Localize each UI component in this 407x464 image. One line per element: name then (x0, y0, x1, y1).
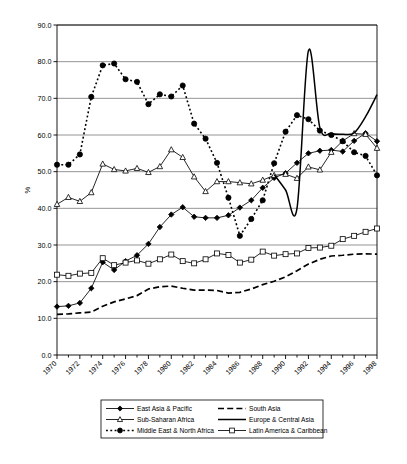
x-tick-label: 1992 (292, 359, 310, 377)
data-point-marker (134, 79, 139, 84)
chart-container: 0.010.020.030.040.050.060.070.080.090.0 … (0, 0, 407, 464)
data-point-marker (89, 190, 95, 195)
data-point-marker (363, 153, 368, 158)
data-point-marker (226, 195, 231, 200)
data-point-marker (226, 213, 231, 218)
data-point-marker (157, 92, 162, 97)
data-point-marker (237, 260, 242, 265)
series-latin-america-caribbean (55, 226, 380, 278)
data-point-marker (111, 166, 117, 171)
x-axis: 1970197219741976197819801982198419861988… (41, 355, 379, 377)
data-point-marker (272, 253, 277, 258)
y-tick-label: 80.0 (38, 57, 52, 66)
data-point-marker (214, 160, 219, 165)
x-tick-label: 1976 (109, 359, 127, 377)
x-tick-label: 1986 (224, 359, 242, 377)
data-point-marker (283, 129, 288, 134)
data-point-marker (123, 77, 128, 82)
data-point-marker (203, 257, 208, 262)
data-point-marker (237, 205, 242, 210)
data-point-marker (77, 152, 82, 157)
series-east-asia-pacific (54, 130, 379, 309)
data-point-marker (374, 173, 379, 178)
y-tick-label: 20.0 (38, 277, 52, 286)
data-point-marker (340, 139, 345, 144)
data-point-marker (54, 162, 59, 167)
data-point-marker (260, 198, 265, 203)
data-point-marker (375, 226, 380, 231)
x-tick-label: 1970 (41, 359, 59, 377)
data-point-marker (169, 94, 174, 99)
data-point-marker (66, 162, 71, 167)
data-point-marker (100, 161, 106, 166)
data-point-marker (230, 428, 235, 433)
data-point-marker (306, 164, 312, 169)
data-series (54, 49, 380, 314)
data-point-marker (226, 252, 231, 257)
data-point-marker (237, 233, 242, 238)
y-axis-title: % (23, 186, 32, 193)
data-point-marker (352, 150, 357, 155)
data-point-marker (306, 245, 311, 250)
data-point-marker (54, 201, 60, 206)
x-tick-label: 1972 (64, 359, 82, 377)
data-point-marker (100, 63, 105, 68)
legend-label: East Asia & Pacific (137, 405, 193, 412)
data-point-marker (123, 260, 128, 265)
data-point-marker (192, 261, 197, 266)
data-point-marker (363, 229, 368, 234)
data-point-marker (191, 174, 197, 179)
data-point-marker (260, 249, 265, 254)
y-tick-label: 60.0 (38, 131, 52, 140)
data-point-marker (203, 136, 208, 141)
legend-item-latin-america-caribbean[interactable]: Latin America & Caribbean (218, 427, 328, 434)
y-tick-label: 90.0 (38, 21, 52, 30)
data-point-marker (249, 257, 254, 262)
x-tick-label: 1994 (315, 359, 333, 377)
data-point-marker (112, 263, 117, 268)
y-tick-label: 0.0 (42, 351, 52, 360)
y-tick-label: 40.0 (38, 204, 52, 213)
data-point-marker (89, 94, 94, 99)
x-tick-label: 1998 (361, 359, 379, 377)
data-point-marker (317, 245, 322, 250)
y-axis-label: % (23, 186, 32, 193)
legend-label: Sub-Saharan Africa (137, 416, 195, 423)
data-point-marker (283, 252, 288, 257)
data-point-marker (374, 139, 379, 144)
data-point-marker (340, 237, 345, 242)
data-point-marker (203, 215, 208, 220)
data-point-marker (77, 271, 82, 276)
y-tick-label: 30.0 (38, 241, 52, 250)
data-point-marker (146, 102, 151, 107)
y-tick-label: 10.0 (38, 314, 52, 323)
grid-lines (57, 25, 377, 318)
data-point-marker (66, 303, 71, 308)
legend-label: Latin America & Caribbean (249, 427, 328, 434)
data-point-marker (317, 128, 322, 133)
x-tick-label: 1982 (178, 359, 196, 377)
y-axis: 0.010.020.030.040.050.060.070.080.090.0 (38, 21, 58, 360)
data-point-marker (55, 272, 60, 277)
series-sub-saharan-africa (54, 131, 380, 207)
line-chart: 0.010.020.030.040.050.060.070.080.090.0 … (0, 0, 407, 464)
data-point-marker (157, 257, 162, 262)
data-point-marker (66, 194, 72, 199)
data-point-marker (329, 132, 334, 137)
x-tick-label: 1980 (155, 359, 173, 377)
x-tick-label: 1974 (86, 359, 104, 377)
data-point-marker (146, 261, 151, 266)
x-tick-label: 1988 (246, 359, 264, 377)
data-point-marker (100, 256, 105, 261)
data-point-marker (180, 154, 186, 159)
legend-label: Europe & Central Asia (249, 416, 314, 424)
chart-legend: East Asia & PacificSouth AsiaSub-Saharan… (101, 400, 328, 438)
data-point-marker (249, 216, 254, 221)
data-point-marker (294, 113, 299, 118)
x-tick-label: 1990 (269, 359, 287, 377)
data-point-marker (295, 251, 300, 256)
data-point-marker (214, 215, 219, 220)
data-point-marker (215, 251, 220, 256)
x-tick-label: 1978 (132, 359, 150, 377)
data-point-marker (118, 428, 123, 433)
